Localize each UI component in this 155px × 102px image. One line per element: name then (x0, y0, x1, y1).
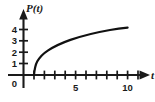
y-tick-label-2: 2 (12, 47, 17, 58)
y-axis-title: P(t) (26, 2, 43, 15)
plot-area: 0 1 2 3 4 5 10 P(t) t (0, 0, 155, 102)
data-series-p-of-t (34, 28, 128, 75)
y-axis (19, 9, 28, 88)
y-tick-label-3: 3 (12, 35, 17, 46)
y-tick-label-0: 0 (12, 78, 17, 89)
curve-p-of-t (34, 28, 128, 75)
x-axis-title: t (151, 69, 155, 81)
x-tick-label-10: 10 (122, 82, 133, 93)
chart-figure: 0 1 2 3 4 5 10 P(t) t (0, 0, 155, 102)
x-axis-arrow-icon (140, 71, 151, 80)
y-tick-label-1: 1 (12, 58, 18, 69)
x-tick-labels: 5 10 (73, 82, 133, 93)
y-tick-labels: 0 1 2 3 4 (12, 24, 18, 89)
x-tick-label-5: 5 (73, 82, 79, 93)
y-tick-label-4: 4 (12, 24, 18, 35)
x-axis (8, 71, 150, 80)
